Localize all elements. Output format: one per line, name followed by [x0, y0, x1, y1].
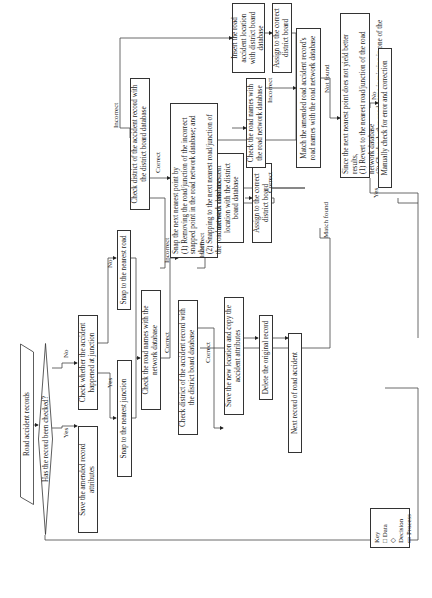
label-correct-4: Correct — [266, 172, 274, 193]
label-incorrect-2: Incorrect — [198, 233, 206, 258]
delete-original-node: Delete the original record — [259, 315, 273, 400]
label-yes-2: Yes — [106, 378, 114, 388]
since-title: Since the next nearest point does not yi… — [342, 17, 359, 174]
legend-key: Key □ Data ◇ Decision ▭ Process — [370, 508, 410, 548]
label-match-found: Match found — [322, 202, 330, 238]
snap-road-node: Snap to the nearest road — [117, 230, 131, 310]
decision-record-checked: Has the record been checked? — [38, 343, 53, 535]
next-record-node: Next record of road accident — [288, 333, 302, 453]
legend-title: Key — [373, 513, 381, 543]
label-incorrect-1: Incorrect — [163, 238, 171, 263]
match-amended-node: Match the amended road accident record's… — [296, 28, 321, 168]
check-names-node-2: Check the road names with the road netwo… — [246, 78, 266, 168]
label-no-2: No — [106, 259, 114, 268]
check-junction-node: Check whether the accident happened at j… — [78, 315, 98, 410]
label-no-1: No — [62, 349, 70, 358]
label-yes-1: Yes — [62, 428, 70, 438]
snap-next-node: Snap the next nearest point by (1) Remov… — [170, 103, 218, 258]
assign-district-node-2: Assign to the correct district board — [272, 3, 292, 73]
label-correct-3: Correct — [154, 152, 162, 173]
label-correct-1: Correct — [163, 332, 171, 353]
check-district-node-1: Check district of the accident record wi… — [178, 300, 198, 435]
flowchart: Road accident records Has the record bee… — [0, 0, 432, 598]
label-yes-3: Yes — [372, 188, 380, 198]
snap-junction-node: Snap to the nearest junction — [117, 360, 132, 477]
snap-next-step-2: (2) Snapping to the next nearest road/ju… — [206, 107, 223, 254]
since-node: Since the next nearest point does not yi… — [340, 13, 370, 178]
save-new-location-node: Save the new location and copy the accid… — [224, 297, 244, 415]
label-incorrect-4: Incorrect — [266, 78, 274, 103]
legend-item-process: ▭ Process — [405, 513, 413, 543]
save-amended-node: Save the amended record attributes — [78, 426, 98, 533]
label-no-3: No — [370, 91, 378, 100]
start-node: Road accident records — [20, 343, 34, 505]
check-names-node-1: Check the road names with the network da… — [141, 290, 161, 410]
label-incorrect-3: Incorrect — [112, 103, 120, 128]
snap-next-title: Snap the next nearest point by — [172, 167, 181, 254]
label-correct-2: Correct — [204, 342, 212, 363]
legend-item-data: □ Data — [381, 513, 389, 543]
label-not-found: Not found — [323, 64, 331, 93]
data-icon: □ — [381, 539, 388, 543]
manual-check-node: Manually check for error and correction — [378, 48, 392, 188]
decision-icon: ◇ — [389, 538, 396, 543]
legend-item-decision: ◇ Decision — [389, 513, 405, 543]
process-icon: ▭ — [405, 537, 412, 543]
check-district-node-2: Check district of the accident record wi… — [130, 78, 150, 210]
insert-node: Insert the road accident location with d… — [232, 3, 265, 73]
